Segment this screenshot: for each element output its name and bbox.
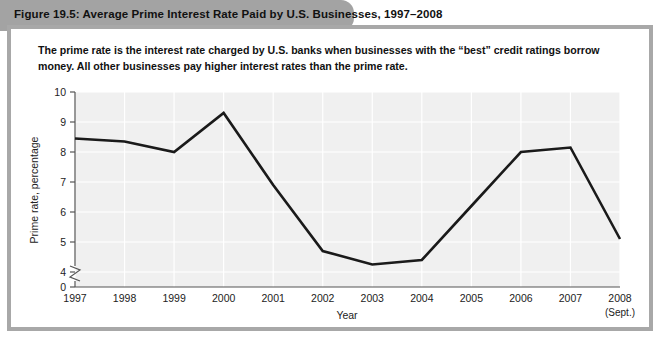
figure-container: Figure 19.5: Average Prime Interest Rate… bbox=[0, 0, 660, 338]
figure-title: Figure 19.5: Average Prime Interest Rate… bbox=[14, 8, 443, 20]
figure-caption: The prime rate is the interest rate char… bbox=[38, 42, 628, 74]
